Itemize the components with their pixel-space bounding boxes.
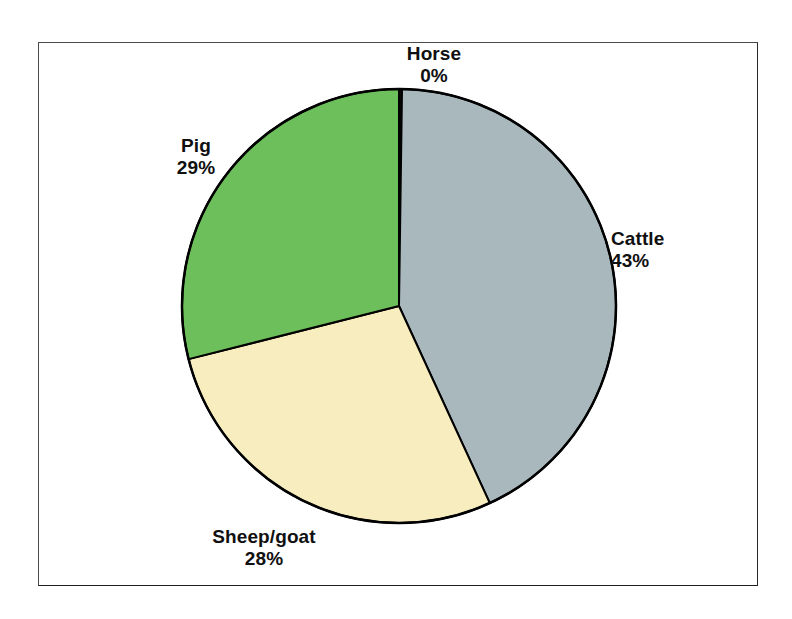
pie-label-horse: Horse 0% [344, 43, 524, 88]
pie-chart-svg [39, 43, 759, 587]
pie-label-pig: Pig 29% [131, 135, 261, 180]
pie-label-horse-value: 0% [344, 65, 524, 87]
pie-label-cattle-value: 43% [611, 250, 741, 272]
pie-label-sheep-goat: Sheep/goat 28% [149, 526, 379, 571]
pie-label-pig-name: Pig [131, 135, 261, 157]
pie-label-cattle-name: Cattle [611, 228, 741, 250]
pie-label-pig-value: 29% [131, 157, 261, 179]
pie-label-cattle: Cattle 43% [611, 228, 741, 273]
chart-page: Horse 0% Pig 29% Cattle 43% Sheep/goat 2… [0, 0, 792, 619]
pie-label-horse-name: Horse [344, 43, 524, 65]
pie-label-sheep-goat-name: Sheep/goat [149, 526, 379, 548]
chart-frame: Horse 0% Pig 29% Cattle 43% Sheep/goat 2… [38, 42, 758, 586]
pie-chart: Horse 0% Pig 29% Cattle 43% Sheep/goat 2… [39, 43, 759, 587]
pie-label-sheep-goat-value: 28% [149, 548, 379, 570]
